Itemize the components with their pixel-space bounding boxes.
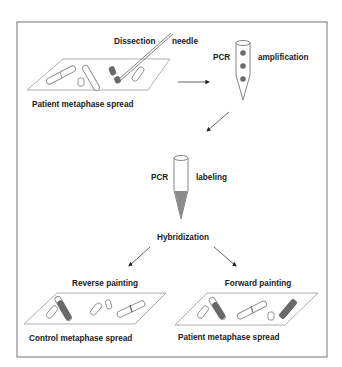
- dissection-label: Dissection: [114, 37, 155, 46]
- chromosome-icon: [78, 78, 84, 86]
- dna-fragment-icon: [240, 63, 246, 69]
- reverse-painting-label: Reverse painting: [72, 279, 138, 288]
- patient-spread-label-bottom: Patient metaphase spread: [178, 333, 279, 342]
- needle-label: needle: [172, 37, 198, 46]
- amplification-label: amplification: [258, 53, 309, 62]
- pcr-label-amplification: PCR: [213, 53, 230, 62]
- dna-fragment-icon: [240, 50, 246, 56]
- patient-spread-label-top: Patient metaphase spread: [32, 100, 133, 109]
- labeling-label: labeling: [196, 173, 227, 182]
- control-spread-label: Control metaphase spread: [29, 334, 132, 343]
- chromosome-icon: [268, 312, 274, 320]
- forward-painting-label: Forward painting: [225, 279, 291, 288]
- diagram-canvas: Dissection needle Patient metaphase spre…: [0, 0, 342, 367]
- hybridization-label: Hybridization: [157, 233, 209, 242]
- dna-fragment-icon: [240, 76, 246, 82]
- pcr-label-labeling: PCR: [151, 173, 168, 182]
